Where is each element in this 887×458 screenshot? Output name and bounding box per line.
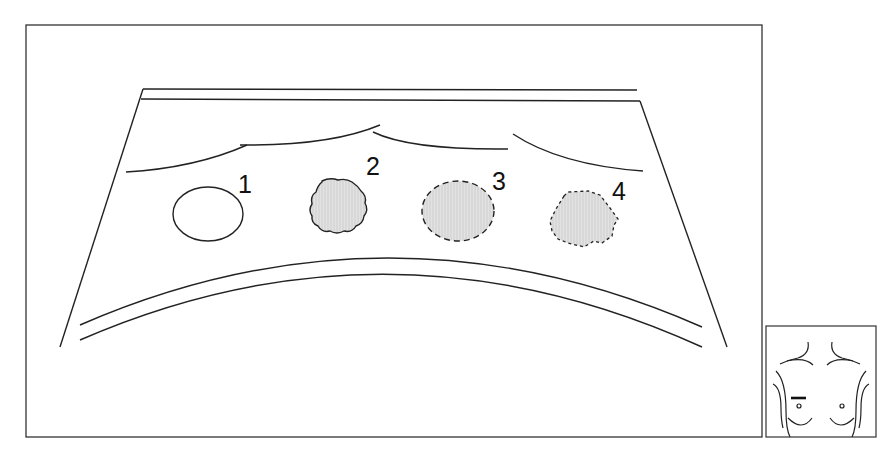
ultrasound-diagram: 1 2 3 4 [0, 0, 887, 458]
lesion-4: 4 [550, 177, 626, 247]
lesion-label-4: 4 [612, 177, 626, 205]
lesion-label-2: 2 [366, 152, 380, 180]
lesion-1: 1 [173, 170, 252, 241]
main-frame [26, 25, 762, 437]
deep-layers [80, 258, 702, 347]
lesion-2: 2 [310, 152, 380, 233]
tissue-layers [126, 125, 643, 172]
lesion-3: 3 [422, 167, 506, 241]
lesion-label-3: 3 [492, 167, 506, 195]
scan-field [60, 89, 727, 347]
lesion-label-1: 1 [238, 170, 252, 198]
body-marker [766, 326, 876, 437]
